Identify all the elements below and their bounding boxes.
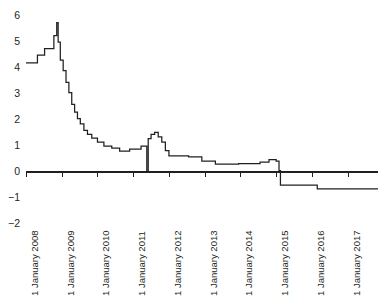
x-axis-label-2010: 1 January 2010 — [101, 231, 111, 297]
y-axis-label-neg1: −1 — [0, 192, 20, 203]
axis-group — [26, 172, 378, 177]
chart-plot-area — [0, 0, 384, 302]
data-series-group — [26, 23, 378, 189]
line-chart: 6543210−1−2 1 January 20081 January 2009… — [0, 0, 384, 302]
series-line-rate — [26, 23, 378, 189]
y-axis-label-3: 3 — [0, 88, 20, 99]
y-axis-label-2: 2 — [0, 114, 20, 125]
x-axis-label-2012: 1 January 2012 — [173, 231, 183, 297]
x-axis-label-2009: 1 January 2009 — [66, 231, 76, 297]
x-axis-label-2013: 1 January 2013 — [209, 231, 219, 297]
y-axis-label-0: 0 — [0, 166, 20, 177]
x-axis-label-2008: 1 January 2008 — [30, 231, 40, 297]
y-axis-label-neg2: −2 — [0, 218, 20, 229]
y-axis-label-1: 1 — [0, 140, 20, 151]
x-axis-label-2016: 1 January 2016 — [316, 231, 326, 297]
y-axis-label-4: 4 — [0, 62, 20, 73]
x-axis-label-2011: 1 January 2011 — [137, 231, 147, 296]
x-axis-label-2015: 1 January 2015 — [280, 231, 290, 297]
y-axis-label-5: 5 — [0, 36, 20, 47]
x-axis-label-2017: 1 January 2017 — [352, 231, 362, 297]
x-axis-ticks — [27, 172, 349, 177]
x-axis-label-2014: 1 January 2014 — [244, 231, 254, 297]
y-axis-label-6: 6 — [0, 10, 20, 21]
